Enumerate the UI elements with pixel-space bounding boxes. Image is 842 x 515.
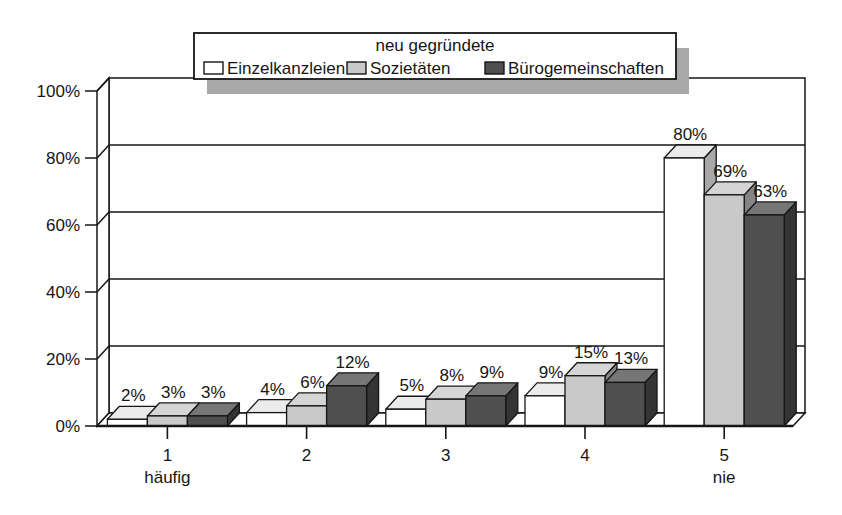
bar-s1-c4	[565, 376, 605, 426]
y-axis-label-100: 100%	[37, 82, 80, 101]
scanned-chart-page: 0%20%40%60%80%100%1häufig2345nie2%3%3%4%…	[0, 0, 842, 515]
x-axis-label-2: 2	[302, 446, 311, 465]
data-label-s2-c4: 13%	[614, 349, 648, 368]
x-axis-label-1: 1	[163, 446, 172, 465]
x-axis-label-3: 3	[441, 446, 450, 465]
y-axis-label-80: 80%	[46, 149, 80, 168]
legend-label-1: Sozietäten	[370, 59, 450, 78]
bar-s1-c5	[704, 195, 744, 426]
bar-s2-c5	[744, 215, 784, 426]
data-label-s2-c2: 12%	[336, 353, 370, 372]
bar-s1-c2	[287, 406, 327, 426]
bar-s0-c5	[664, 158, 704, 426]
y-axis-label-40: 40%	[46, 283, 80, 302]
bar-s2-c4	[605, 382, 645, 426]
legend-swatch-2	[485, 62, 504, 74]
data-label-s2-c5: 63%	[753, 182, 787, 201]
data-label-s1-c2: 6%	[300, 373, 325, 392]
legend-label-2: Bürogemeinschaften	[508, 59, 664, 78]
data-label-s1-c1: 3%	[161, 383, 186, 402]
data-label-s2-c1: 3%	[201, 383, 226, 402]
legend-swatch-0	[204, 62, 223, 74]
bar-s1-c3	[426, 399, 466, 426]
y-axis-label-0: 0%	[55, 417, 80, 436]
y-axis-label-20: 20%	[46, 350, 80, 369]
x-axis-label-4: 4	[580, 446, 589, 465]
bar-s2-c5-side	[784, 202, 796, 426]
data-label-s1-c5: 69%	[713, 162, 747, 181]
bar-s2-c2	[327, 386, 367, 426]
bar-s0-c4	[525, 396, 565, 426]
data-label-s0-c5: 80%	[673, 125, 707, 144]
data-label-s1-c3: 8%	[440, 366, 465, 385]
y-axis-label-60: 60%	[46, 216, 80, 235]
x-axis-sublabel-1: häufig	[144, 468, 190, 487]
x-axis-label-5: 5	[719, 446, 728, 465]
bar-s1-c1	[147, 416, 187, 426]
left-wall	[97, 78, 109, 426]
x-axis-sublabel-5: nie	[713, 468, 736, 487]
legend-label-0: Einzelkanzleien	[227, 59, 345, 78]
data-label-s0-c3: 5%	[400, 376, 425, 395]
bar-s2-c3	[466, 396, 506, 426]
data-label-s0-c2: 4%	[260, 380, 285, 399]
bar-s0-c2	[247, 413, 287, 426]
bar-chart-3d: 0%20%40%60%80%100%1häufig2345nie2%3%3%4%…	[0, 0, 842, 515]
data-label-s0-c1: 2%	[121, 386, 146, 405]
legend-swatch-1	[347, 62, 366, 74]
data-label-s2-c3: 9%	[480, 363, 505, 382]
legend-title: neu gegründete	[375, 36, 494, 55]
bar-s0-c3	[386, 409, 426, 426]
data-label-s1-c4: 15%	[574, 343, 608, 362]
bar-s2-c1	[187, 416, 227, 426]
data-label-s0-c4: 9%	[539, 363, 564, 382]
